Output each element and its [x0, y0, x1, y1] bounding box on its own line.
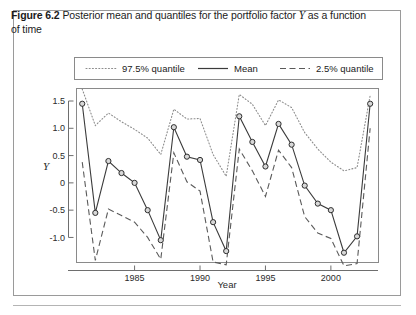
figure-container: [13, 10, 401, 296]
figure-caption: Figure 6.2 Posterior mean and quantiles …: [11, 8, 373, 36]
figure-number: Figure 6.2: [11, 9, 60, 21]
caption-variable: Y: [299, 9, 305, 21]
caption-text-before: Posterior mean and quantiles for the por…: [62, 9, 295, 21]
page-divider: [13, 305, 401, 306]
